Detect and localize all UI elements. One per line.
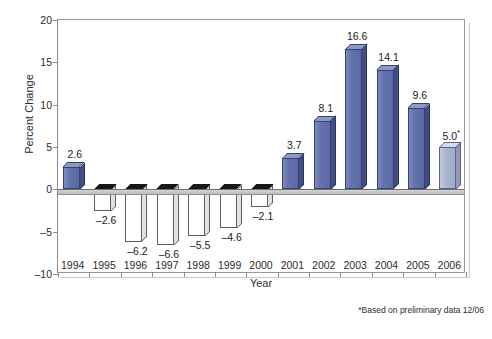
x-tick-mark: [152, 272, 153, 277]
bar-side-face: [299, 153, 304, 189]
y-tick-label: 10: [30, 99, 52, 111]
x-tick-mark: [89, 272, 90, 277]
bar-side-face: [456, 142, 461, 189]
y-tick-label: 20: [30, 14, 52, 26]
bar: [188, 189, 205, 236]
bar-front-face: [439, 147, 456, 189]
x-tick-mark: [403, 272, 404, 277]
y-tick-mark: [53, 232, 58, 233]
bar-value-label: –2.1: [240, 210, 286, 222]
bar-value-label: 14.1: [366, 51, 412, 63]
y-tick-label: 15: [30, 56, 52, 68]
bar: [282, 158, 299, 189]
y-tick-label: –10: [30, 268, 52, 280]
y-tick-mark: [53, 62, 58, 63]
bar-side-face: [394, 65, 399, 189]
bar: [314, 121, 331, 190]
footnote: *Based on preliminary data 12/06: [358, 305, 484, 315]
bar-front-face: [157, 189, 174, 245]
y-axis-title: Percent Change: [23, 29, 35, 199]
bar-front-face: [282, 158, 299, 189]
bar: [345, 49, 362, 190]
x-tick-mark: [278, 272, 279, 277]
x-tick-mark: [372, 272, 373, 277]
x-tick-mark: [309, 272, 310, 277]
x-tick-mark: [58, 272, 59, 277]
bar-value-label: 5.0*: [428, 128, 474, 142]
bar-chart-figure: Percent Change Year 20151050–5–10 2.6–2.…: [0, 0, 492, 339]
bar-value-label: 8.1: [303, 102, 349, 114]
bar-value-label: –2.6: [83, 214, 129, 226]
bar-value-label: 2.6: [52, 148, 98, 160]
y-tick-label: –5: [30, 226, 52, 238]
x-tick-mark: [435, 272, 436, 277]
x-tick-mark: [184, 272, 185, 277]
bar: [408, 108, 425, 189]
bar: [157, 189, 174, 245]
x-tick-mark: [340, 272, 341, 277]
bar-front-face: [377, 70, 394, 189]
bar: [63, 167, 80, 189]
bar-side-face: [331, 116, 336, 190]
y-tick-label: 5: [30, 141, 52, 153]
caption-strip: [0, 332, 492, 339]
bar-side-face: [362, 44, 367, 190]
zero-line: [58, 189, 464, 190]
bar-front-face: [345, 49, 362, 190]
bar-value-label: 9.6: [397, 89, 443, 101]
x-tick-mark: [215, 272, 216, 277]
bar-value-label: 3.7: [271, 139, 317, 151]
x-tick-mark: [121, 272, 122, 277]
y-tick-mark: [53, 105, 58, 106]
plot-area: 20151050–5–10 2.6–2.6–6.2–6.6–5.5–4.6–2.…: [57, 19, 465, 273]
y-tick-label: 0: [30, 183, 52, 195]
x-tick-mark: [466, 272, 467, 277]
bar: [439, 147, 456, 189]
bar-value-label: –4.6: [209, 231, 255, 243]
bar-front-face: [314, 121, 331, 190]
bar-front-face: [63, 167, 80, 189]
x-tick-label: 2006: [429, 259, 469, 271]
bar-front-face: [408, 108, 425, 189]
bar-value-label: 16.6: [334, 30, 380, 42]
x-tick-mark: [246, 272, 247, 277]
bar-side-face: [80, 162, 85, 189]
bar-front-face: [188, 189, 205, 236]
x-axis-title: Year: [57, 277, 465, 289]
bar-side-face: [425, 103, 430, 189]
bar: [377, 70, 394, 189]
y-tick-mark: [53, 20, 58, 21]
